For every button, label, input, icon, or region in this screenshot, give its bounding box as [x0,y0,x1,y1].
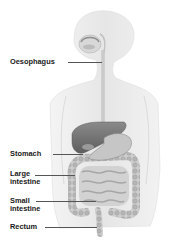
leader-large-intestine [35,175,75,176]
label-rectum: Rectum [10,223,37,231]
rectum-shape [98,210,100,234]
label-large-intestine-line2: intestine [10,178,40,186]
label-stomach: Stomach [10,150,41,158]
leader-small-intestine [36,201,96,202]
label-oesophagus: Oesophagus [10,58,55,66]
label-small-intestine-line2: intestine [10,205,40,213]
leader-oesophagus [68,62,102,63]
small-intestine-shape [79,166,129,206]
label-small-intestine: Small intestine [10,197,40,214]
leader-rectum [45,227,97,228]
label-large-intestine: Large intestine [10,170,40,187]
leader-stomach [53,154,83,155]
